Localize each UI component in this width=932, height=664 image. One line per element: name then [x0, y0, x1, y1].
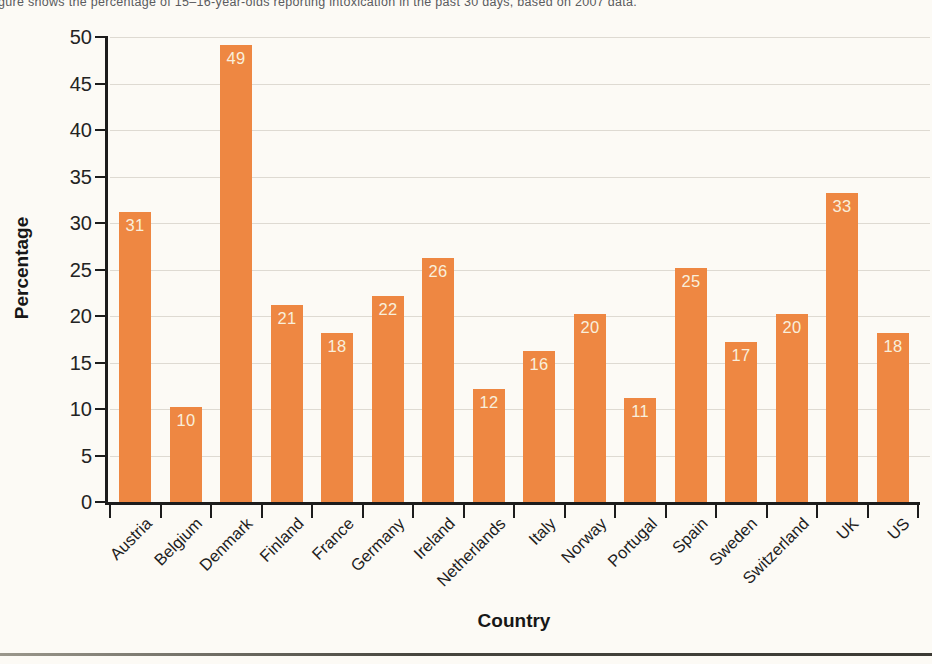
bar-value-label: 20: [570, 318, 610, 337]
x-tick: [311, 505, 313, 518]
bar: [826, 193, 858, 504]
y-axis-title: Percentage: [11, 217, 33, 319]
y-tick: [95, 129, 105, 131]
x-tick: [867, 505, 869, 518]
bar-value-label: 26: [418, 262, 458, 281]
x-tick: [766, 505, 768, 518]
bottom-rule: [0, 653, 932, 656]
bar-value-label: 22: [368, 300, 408, 319]
x-tick: [564, 505, 566, 518]
x-category-label: Italy: [525, 514, 560, 549]
y-tick: [95, 176, 105, 178]
bar: [776, 314, 808, 504]
bar: [271, 305, 303, 504]
y-tick: [95, 222, 105, 224]
y-tick: [95, 408, 105, 410]
x-tick: [160, 505, 162, 518]
y-tick: [95, 36, 105, 38]
x-category-label: Austria: [106, 514, 156, 564]
x-tick: [513, 505, 515, 518]
x-category-label: US: [884, 514, 914, 544]
x-category-label: Denmark: [196, 514, 257, 575]
x-category-label: Norway: [557, 514, 610, 567]
x-tick: [665, 505, 667, 518]
y-tick-label: 40: [38, 119, 92, 141]
x-tick: [109, 505, 111, 518]
x-tick: [917, 505, 919, 518]
x-category-label: Germany: [347, 514, 408, 575]
bar: [675, 268, 707, 504]
y-tick-label: 25: [38, 259, 92, 281]
bar: [372, 296, 404, 504]
bar-value-label: 17: [721, 346, 761, 365]
y-tick-label: 10: [38, 398, 92, 420]
x-tick: [614, 505, 616, 518]
x-tick: [261, 505, 263, 518]
bar: [220, 45, 252, 504]
bar-value-label: 10: [166, 411, 206, 430]
bar-value-label: 21: [267, 309, 307, 328]
bar: [119, 212, 151, 504]
x-axis-line: [105, 502, 920, 505]
bar-value-label: 18: [873, 337, 913, 356]
x-tick: [210, 505, 212, 518]
y-tick-label: 45: [38, 73, 92, 95]
bar-chart: 05101520253035404550 3110492118222612162…: [0, 0, 932, 664]
x-category-label: France: [308, 514, 358, 564]
x-tick: [715, 505, 717, 518]
y-tick-label: 0: [38, 491, 92, 513]
bar: [574, 314, 606, 504]
bar-value-label: 33: [822, 197, 862, 216]
bar-value-label: 20: [772, 318, 812, 337]
bar-value-label: 11: [620, 402, 660, 421]
x-category-label: Finland: [256, 514, 308, 566]
scanned-figure-page: gure shows the percentage of 15–16-year-…: [0, 0, 932, 664]
bar-value-label: 12: [469, 393, 509, 412]
y-tick: [95, 501, 105, 503]
x-tick: [412, 505, 414, 518]
y-tick: [95, 455, 105, 457]
y-tick-label: 5: [38, 445, 92, 467]
y-tick-label: 15: [38, 352, 92, 374]
y-tick-label: 30: [38, 212, 92, 234]
y-tick-label: 50: [38, 26, 92, 48]
bar: [725, 342, 757, 504]
bar-value-label: 16: [519, 355, 559, 374]
y-tick: [95, 362, 105, 364]
x-tick: [463, 505, 465, 518]
y-tick-label: 35: [38, 166, 92, 188]
bar: [877, 333, 909, 504]
x-category-label: Ireland: [409, 514, 458, 563]
bar: [422, 258, 454, 504]
y-axis-line: [105, 36, 108, 505]
x-tick: [362, 505, 364, 518]
x-axis-title: Country: [478, 610, 551, 632]
x-category-label: Spain: [668, 514, 711, 557]
x-category-label: UK: [833, 514, 863, 544]
y-tick-label: 20: [38, 305, 92, 327]
x-category-label: Portugal: [604, 514, 661, 571]
bar-value-label: 18: [317, 337, 357, 356]
bar: [321, 333, 353, 504]
x-tick: [816, 505, 818, 518]
bar-value-label: 25: [671, 272, 711, 291]
y-tick: [95, 315, 105, 317]
gridline: [110, 37, 930, 38]
y-tick: [95, 83, 105, 85]
bar-value-label: 49: [216, 49, 256, 68]
y-tick: [95, 269, 105, 271]
bar-value-label: 31: [115, 216, 155, 235]
